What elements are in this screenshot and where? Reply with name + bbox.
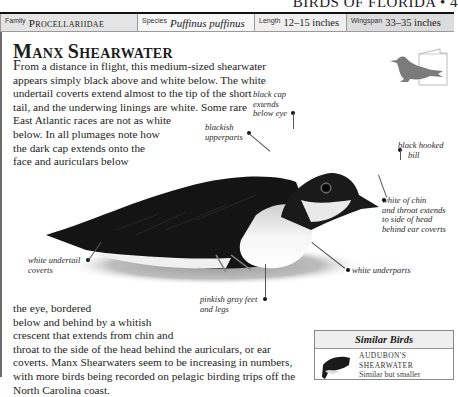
similar-birds-panel: Similar Birds Audubon's Shearwater Simil… xyxy=(314,330,454,380)
similar-bird-name: Audubon's Shearwater xyxy=(359,351,413,370)
continued-paragraph: the eye, bordered below and behind by a … xyxy=(13,302,295,397)
continued-line: North Carolina coast. xyxy=(13,384,110,396)
continued-line: crescent that extends from chin and xyxy=(13,329,173,341)
callout-text: white underparts xyxy=(352,265,411,275)
similar-bird-name-line: Audubon's xyxy=(359,351,407,360)
callout-black-cap: black cap extends below eye xyxy=(253,90,287,119)
wingspan-value: 33–35 inches xyxy=(385,17,441,28)
intro-line: tail, and the underwing linings are whit… xyxy=(13,101,247,113)
callout-text: black cap xyxy=(253,89,286,99)
callout-text: coverts xyxy=(28,265,53,275)
callout-text: to side of head xyxy=(382,214,432,224)
family-value: Procellariidae xyxy=(29,17,105,29)
intro-line: appears simply black above and white bel… xyxy=(13,74,266,86)
continued-line: coverts. Manx Shearwaters seem to be inc… xyxy=(13,356,292,368)
continued-line: throat to the side of the head behind th… xyxy=(13,343,271,355)
length-cell: Length 12–15 inches xyxy=(255,14,347,31)
perched-bird-silhouette-icon xyxy=(388,55,444,85)
callout-text: extends xyxy=(253,99,279,109)
intro-line: rom a distance in flight, this medium-si… xyxy=(21,60,266,72)
callout-text: below eye xyxy=(253,108,287,118)
callout-text: and throat extends xyxy=(382,205,446,215)
callout-white-undertail: white undertail coverts xyxy=(28,256,80,275)
callout-text: behind ear coverts xyxy=(382,224,446,234)
similar-birds-header: Similar Birds xyxy=(315,331,453,349)
callout-text: and legs xyxy=(200,304,229,314)
callout-pinkish-feet: pinkish gray feet and legs xyxy=(200,295,257,314)
callout-text: pinkish gray feet xyxy=(200,294,257,304)
callout-dot xyxy=(346,268,350,272)
callout-text: white of chin xyxy=(382,195,426,205)
intro-paragraph: From a distance in flight, this medium-s… xyxy=(13,59,266,169)
callout-white-underparts: white underparts xyxy=(352,266,411,276)
continued-line: below and behind by a whitish xyxy=(13,316,151,328)
callout-text: upperparts xyxy=(205,132,243,142)
length-label: Length xyxy=(259,17,280,24)
species-label: Species xyxy=(142,17,167,24)
continued-line: the eye, bordered xyxy=(13,302,91,314)
family-cell: Family Procellariidae xyxy=(0,14,138,31)
species-value: Puffinus puffinus xyxy=(170,17,245,29)
similar-bird-description: Similar but smaller xyxy=(359,370,420,379)
wingspan-label: Wingspan xyxy=(351,17,382,24)
running-head: Birds of Florida • 4 xyxy=(293,0,458,11)
length-value: 12–15 inches xyxy=(283,17,339,28)
leader-line xyxy=(293,113,294,129)
intro-line: East Atlantic races are not as white xyxy=(13,114,171,126)
info-bar: Family Procellariidae Species Puffinus p… xyxy=(0,14,454,32)
callout-text: blackish xyxy=(205,122,234,132)
callout-black-hooked-bill: black hooked bill xyxy=(398,141,444,160)
similar-bird-name-line: Shearwater xyxy=(359,361,413,370)
callout-text: white undertail xyxy=(28,255,80,265)
family-label: Family xyxy=(5,17,26,24)
intro-line: the dark cap extends onto the xyxy=(13,142,145,154)
species-cell: Species Puffinus puffinus xyxy=(138,14,255,31)
intro-line: below. In all plumages note how xyxy=(13,128,160,140)
leader-line xyxy=(400,150,401,160)
intro-line: undertail coverts extend almost to the t… xyxy=(13,87,252,99)
leader-line xyxy=(265,264,266,298)
callout-dot xyxy=(382,198,386,202)
callout-blackish-upperparts: blackish upperparts xyxy=(205,123,243,142)
audubons-shearwater-thumbnail xyxy=(321,353,351,381)
callout-text: black hooked xyxy=(398,140,444,150)
wingspan-cell: Wingspan 33–35 inches xyxy=(347,14,454,31)
callout-white-chin: white of chin and throat extends to side… xyxy=(382,196,446,234)
page-left-border xyxy=(0,32,2,377)
intro-dropcap: F xyxy=(13,58,21,73)
continued-line: with more birds being recorded on pelagi… xyxy=(13,370,295,382)
